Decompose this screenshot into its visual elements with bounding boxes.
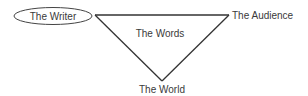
- writer-label: The Writer: [30, 11, 77, 22]
- triangle: [95, 15, 229, 81]
- rhetorical-triangle-diagram: The Writer The Audience The Words The Wo…: [0, 0, 308, 96]
- edge-audience-world: [162, 15, 229, 81]
- audience-label: The Audience: [232, 10, 294, 21]
- world-label: The World: [139, 84, 185, 95]
- node-writer: The Writer: [14, 8, 92, 25]
- edge-world-writer: [95, 15, 162, 81]
- center-words-label: The Words: [136, 28, 185, 39]
